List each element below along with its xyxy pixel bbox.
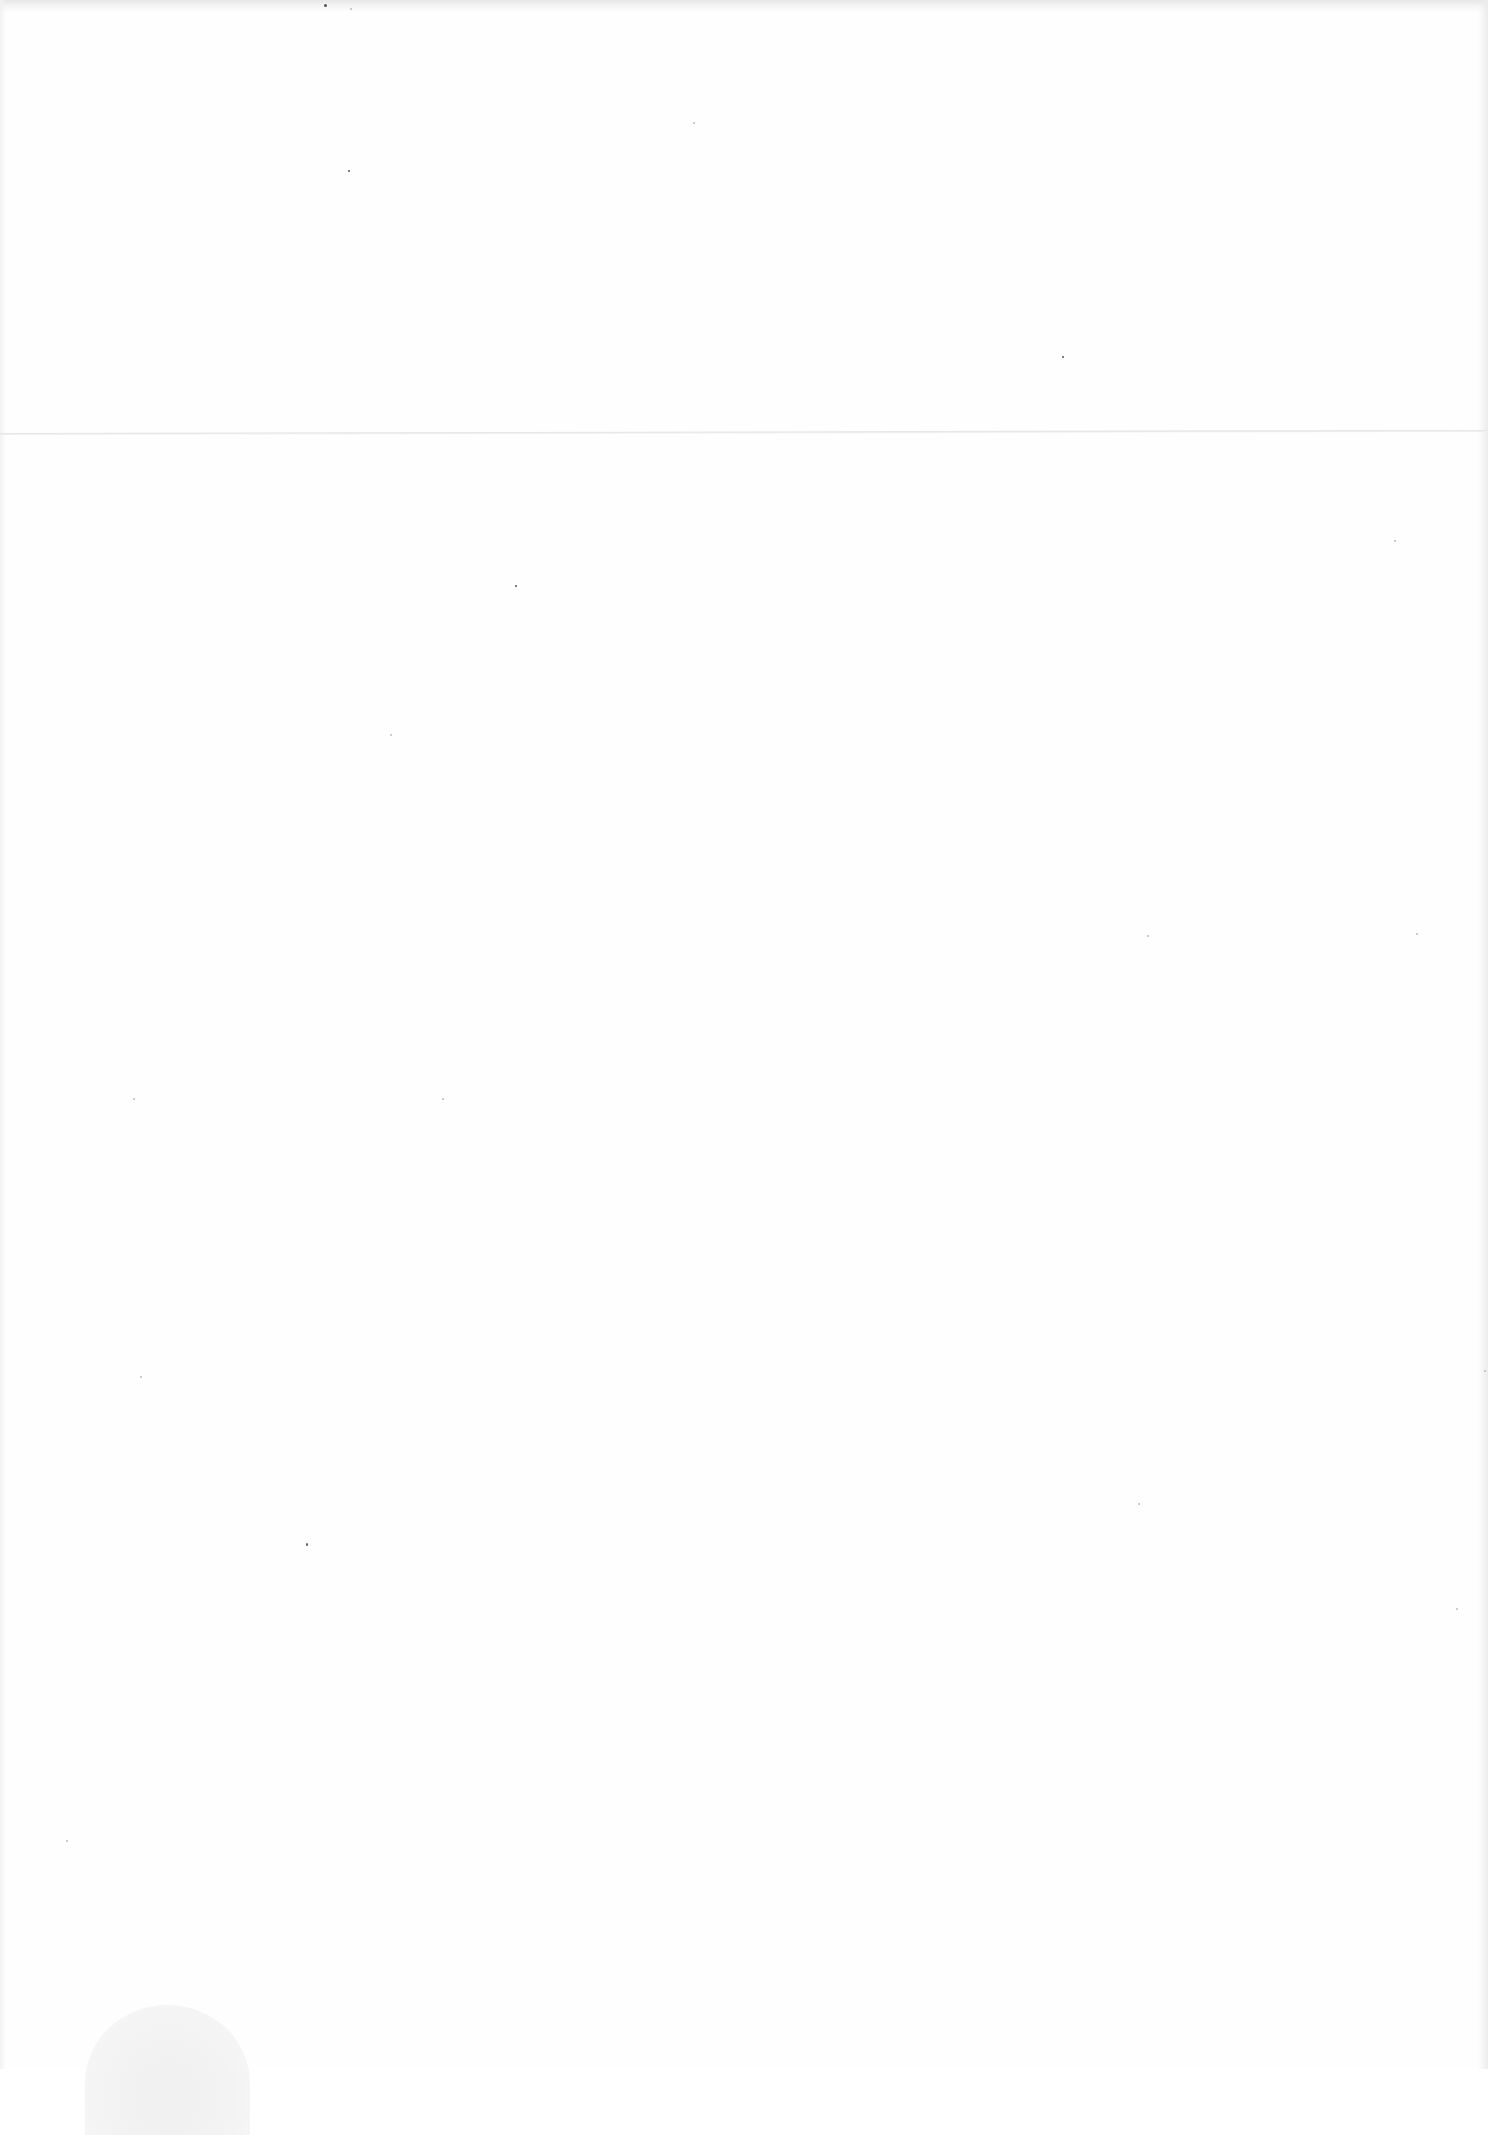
dust-speck [442,1098,444,1100]
dust-speck [350,8,352,10]
dust-speck [306,1543,308,1546]
dust-speck [1456,1608,1458,1610]
dust-speck [1138,1503,1140,1505]
dust-speck [140,1376,142,1378]
paper-stain [85,2005,250,2135]
dust-speck [693,122,695,124]
dust-speck [66,1840,68,1842]
dust-speck [515,585,517,587]
dust-speck [1147,935,1149,937]
paper-fold-crease [0,430,1488,435]
scan-left-edge-shadow [0,0,6,2069]
dust-speck [1394,540,1396,542]
dust-speck [1416,933,1418,935]
dust-speck [1484,1370,1486,1372]
dust-speck [133,1098,135,1100]
scan-right-edge-shadow [1478,0,1488,2069]
dust-speck [348,170,350,172]
scan-top-edge-shadow [0,0,1488,12]
dust-speck [1062,356,1064,358]
dust-speck [324,4,327,7]
dust-speck [390,734,392,736]
